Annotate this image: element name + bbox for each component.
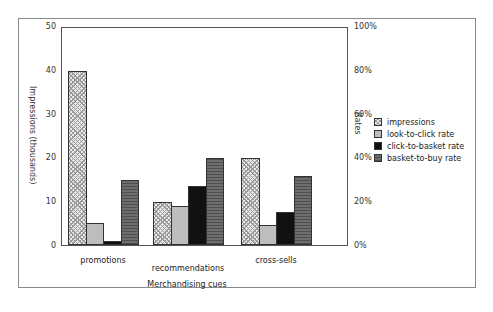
legend-item-click-to-basket: click-to-basket rate <box>374 140 464 152</box>
bar-basket-to-buy-rate <box>121 180 140 245</box>
y2-tick: 20% <box>354 198 372 206</box>
y2-tick: 100% <box>354 23 377 31</box>
y-tick: 10 <box>46 198 56 206</box>
y-tick: 40 <box>46 67 56 75</box>
crosshatch-swatch-icon <box>374 118 382 126</box>
legend-item-basket-to-buy: basket-to-buy rate <box>374 152 464 164</box>
x-axis-title: Merchandising cues <box>147 280 226 289</box>
bar-look-to-click-rate <box>86 223 105 245</box>
y2-tick: 0% <box>354 242 367 250</box>
y2-tick: 80% <box>354 67 372 75</box>
bar-click-to-basket-rate <box>103 241 122 245</box>
bar-click-to-basket-rate <box>188 186 207 245</box>
black-swatch-icon <box>374 142 382 150</box>
y2-axis-title: Rates <box>353 112 362 135</box>
light-gray-swatch-icon <box>374 130 382 138</box>
legend: impressions look-to-click rate click-to-… <box>374 116 464 164</box>
category-label: recommendations <box>152 264 224 273</box>
bar-look-to-click-rate <box>259 225 278 245</box>
category-label: promotions <box>80 256 125 265</box>
bar-look-to-click-rate <box>171 206 190 245</box>
y2-tick: 40% <box>354 154 372 162</box>
bar-basket-to-buy-rate <box>206 158 225 245</box>
bar-click-to-basket-rate <box>276 212 295 245</box>
bar-basket-to-buy-rate <box>294 176 313 245</box>
category-label: cross-sells <box>255 256 296 265</box>
dark-gray-swatch-icon <box>374 154 382 162</box>
y-axis-title: Impressions (thousands) <box>28 86 37 184</box>
y-tick: 50 <box>46 23 56 31</box>
bar-impressions <box>153 202 172 245</box>
legend-item-look-to-click: look-to-click rate <box>374 128 464 140</box>
legend-item-impressions: impressions <box>374 116 464 128</box>
y-tick: 0 <box>51 242 56 250</box>
plot-area <box>61 27 348 246</box>
y-tick: 30 <box>46 111 56 119</box>
bar-impressions <box>241 158 260 245</box>
bar-impressions <box>68 71 87 245</box>
y-tick: 20 <box>46 154 56 162</box>
